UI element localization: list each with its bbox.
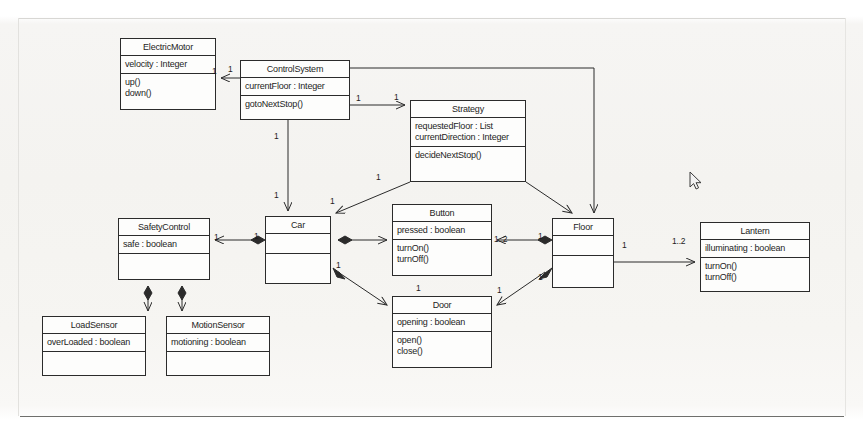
multiplicity-label: 1 [394,92,399,102]
assoc-strategy-floor [526,182,572,213]
class-attributes: safe : boolean [119,236,209,254]
class-name: Floor [553,219,613,236]
operation: turnOff() [397,254,487,265]
class-name: Strategy [411,101,525,118]
class-operations: turnOn() turnOff() [701,258,809,286]
multiplicity-label: 1 [497,285,502,295]
multiplicity-label: 1 [330,196,335,206]
uml-class-safety-control[interactable]: SafetyControl safe : boolean [118,218,210,280]
class-attributes: illuminating : boolean [701,240,809,258]
composition-diamond-safety-load [144,286,152,300]
multiplicity-label: 1 [274,190,279,200]
multiplicity-label: 1 [228,64,233,74]
operation: close() [397,346,487,357]
mouse-pointer-icon [690,172,701,189]
class-operations: decideNextStop() [411,147,525,164]
multiplicity-label: 1 [356,93,361,103]
class-attributes: pressed : boolean [393,222,491,240]
multiplicity-label: 1 [274,131,279,141]
attribute: currentDirection : Integer [415,132,521,143]
attribute: safe : boolean [123,239,205,250]
uml-class-lantern[interactable]: Lantern illuminating : boolean turnOn() … [700,222,810,292]
multiplicity-label: 1 [538,231,543,241]
uml-class-load-sensor[interactable]: LoadSensor overLoaded : boolean [42,316,146,376]
attribute: motioning : boolean [171,337,265,348]
class-attributes: currentFloor : Integer [241,78,349,96]
class-operations: open() close() [393,332,491,360]
class-attributes [553,236,613,256]
multiplicity-label: 1..2 [672,236,685,246]
assoc-car-door [338,272,387,305]
operation: decideNextStop() [415,150,521,161]
class-operations [553,256,613,275]
multiplicity-label: 1 [214,232,219,242]
attribute: velocity : Integer [125,59,211,70]
class-name: ControlSystem [241,61,349,78]
multiplicity-label: 1 [538,272,543,282]
uml-class-door[interactable]: Door opening : boolean open() close() [392,296,492,368]
attribute: opening : boolean [397,317,487,328]
multiplicity-label: 1 [376,172,381,182]
class-operations: gotoNextStop() [241,96,349,113]
class-name: Button [393,205,491,222]
class-attributes: overLoaded : boolean [43,334,145,352]
class-name: Lantern [701,223,809,240]
composition-diamond-safety-motion [178,286,186,300]
operation: turnOn() [705,261,805,272]
uml-class-car[interactable]: Car [265,216,331,284]
operation: turnOn() [397,243,487,254]
class-attributes [266,234,330,254]
multiplicity-label: 1..2 [494,234,507,244]
class-attributes: requestedFloor : List currentDirection :… [411,118,525,147]
class-operations [266,254,330,273]
class-name: LoadSensor [43,317,145,334]
operation: gotoNextStop() [245,99,345,110]
multiplicity-label: 1 [336,260,341,270]
class-operations: turnOn() turnOff() [393,240,491,268]
class-operations: up() down() [121,74,215,102]
composition-diamond-car-button [338,236,352,244]
class-name: ElectricMotor [121,39,215,56]
operation: up() [125,77,211,88]
class-operations [43,352,145,371]
attribute: pressed : boolean [397,225,487,236]
multiplicity-label: 1 [416,283,421,293]
uml-class-floor[interactable]: Floor [552,218,614,288]
diagram-canvas: ElectricMotor velocity : Integer up() do… [0,0,863,437]
operation: open() [397,335,487,346]
class-name: Car [266,217,330,234]
operation: turnOff() [705,272,805,283]
attribute: currentFloor : Integer [245,81,345,92]
class-operations [119,254,209,273]
page-border-bottom [20,416,844,417]
uml-class-control-system[interactable]: ControlSystem currentFloor : Integer got… [240,60,350,120]
multiplicity-label: 1 [622,240,627,250]
page-border-left [18,18,19,416]
class-name: SafetyControl [119,219,209,236]
uml-class-button[interactable]: Button pressed : boolean turnOn() turnOf… [392,204,492,276]
operation: down() [125,88,211,99]
multiplicity-label: 1 [212,66,217,76]
uml-class-strategy[interactable]: Strategy requestedFloor : List currentDi… [410,100,526,182]
uml-class-motion-sensor[interactable]: MotionSensor motioning : boolean [166,316,270,376]
class-attributes: opening : boolean [393,314,491,332]
class-attributes: motioning : boolean [167,334,269,352]
page-border-top [18,18,846,19]
class-operations [167,352,269,371]
attribute: illuminating : boolean [705,243,805,254]
class-attributes: velocity : Integer [121,56,215,74]
attribute: requestedFloor : List [415,121,521,132]
page-border-right [845,18,846,416]
multiplicity-label: 1 [254,231,259,241]
attribute: overLoaded : boolean [47,337,141,348]
uml-class-electric-motor[interactable]: ElectricMotor velocity : Integer up() do… [120,38,216,110]
class-name: Door [393,297,491,314]
class-name: MotionSensor [167,317,269,334]
